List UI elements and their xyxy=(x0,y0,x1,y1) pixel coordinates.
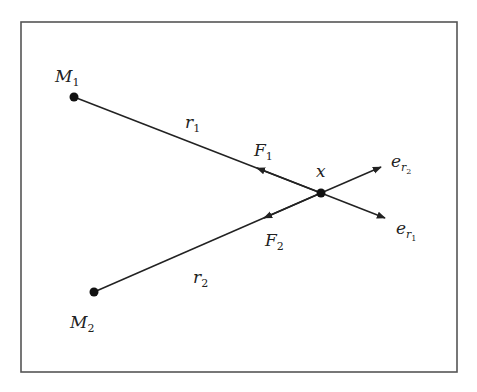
label-r2: r2 xyxy=(193,267,208,290)
point-x xyxy=(317,189,326,198)
label-m1: M1 xyxy=(54,66,79,89)
point-m1 xyxy=(70,93,79,102)
vector-f2 xyxy=(264,193,321,218)
label-f2: F2 xyxy=(264,230,284,253)
vector-e-r2 xyxy=(321,167,381,193)
label-r1: r1 xyxy=(185,112,200,135)
vector-e-r1 xyxy=(321,193,385,218)
vector-f1 xyxy=(257,168,321,193)
label-m2: M2 xyxy=(69,312,94,335)
point-m2 xyxy=(90,288,99,297)
label-e-r2: er2 xyxy=(391,151,411,176)
label-f1: F1 xyxy=(253,140,273,163)
force-diagram: M1 M2 r1 r2 F1 F2 x er2 er1 xyxy=(0,0,477,392)
label-e-r1: er1 xyxy=(396,218,416,243)
label-x: x xyxy=(316,161,326,181)
